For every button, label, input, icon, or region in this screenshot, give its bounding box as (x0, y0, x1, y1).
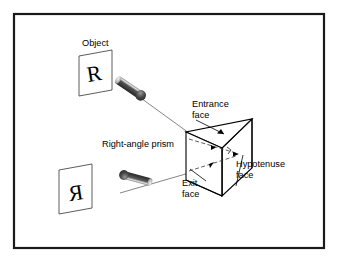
outgoing-arrow-shaft (125, 172, 151, 186)
incoming-arrow (113, 74, 148, 103)
object-card: R (79, 50, 112, 96)
hypotenuse-face-label-line2: face (236, 170, 253, 180)
right-angle-prism-label: Right-angle prism (102, 139, 174, 149)
hypotenuse-face-label-line1: Hypotenuse (236, 159, 285, 169)
exit-face-label-line2: face (182, 189, 199, 199)
optics-diagram-figure: R R (0, 0, 339, 265)
outgoing-arrow (118, 169, 153, 187)
image-card: R (59, 164, 92, 214)
object-label: Object (82, 38, 109, 48)
entrance-face-label-line1: Entrance (192, 99, 229, 109)
entrance-face-label-line2: face (192, 110, 209, 120)
exit-face-label-line1: Exit (182, 178, 198, 188)
diagram-canvas: R R (0, 0, 339, 265)
